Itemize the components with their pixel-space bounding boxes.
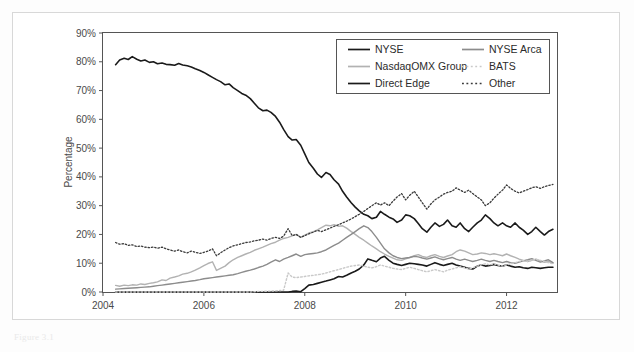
y-axis-tick-label: 40% [76,171,96,182]
legend-label: NYSE [375,43,404,55]
chart-canvas: 0%10%20%30%40%50%60%70%80%90% 2004200620… [0,0,634,352]
legend-label: BATS [489,60,516,72]
y-axis-title: Percentage [63,136,74,188]
figure-root: 0%10%20%30%40%50%60%70%80%90% 2004200620… [0,0,634,352]
market-share-line-chart: 0%10%20%30%40%50%60%70%80%90% 2004200620… [0,0,634,352]
y-axis-tick-label: 30% [76,200,96,211]
legend-label: NYSE Arca [489,43,542,55]
y-axis-tick-label: 80% [76,56,96,67]
y-axis-tick-label: 90% [76,28,96,39]
legend-label: Direct Edge [375,77,430,89]
y-axis-tick-label: 60% [76,114,96,125]
chart-legend: NYSENYSE ArcaNasdaqOMX GroupBATSDirect E… [337,40,550,94]
x-axis-tick-label: 2004 [92,300,115,311]
y-axis-tick-label: 10% [76,258,96,269]
figure-caption: Figure 3.1 [14,332,314,342]
legend-label: NasdaqOMX Group [375,60,467,72]
y-axis: 0%10%20%30%40%50%60%70%80%90% [76,28,103,298]
x-axis-tick-label: 2006 [193,300,216,311]
y-axis-tick-label: 50% [76,143,96,154]
y-axis-tick-label: 0% [82,287,97,298]
x-axis-tick-label: 2010 [395,300,418,311]
x-axis: 20042006200820102012 [92,292,518,311]
y-axis-tick-label: 20% [76,229,96,240]
y-axis-tick-label: 70% [76,85,96,96]
x-axis-tick-label: 2012 [495,300,518,311]
legend-label: Other [489,77,516,89]
x-axis-tick-label: 2008 [294,300,317,311]
